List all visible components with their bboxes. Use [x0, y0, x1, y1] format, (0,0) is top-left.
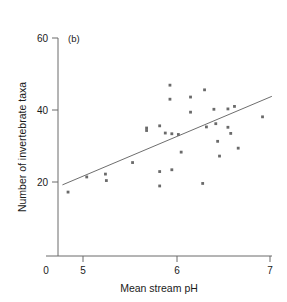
data-point — [169, 98, 172, 101]
y-tick-label-20: 20 — [37, 177, 49, 188]
y-tick-label-60: 60 — [37, 33, 49, 44]
data-point — [203, 88, 206, 91]
data-point — [67, 191, 70, 194]
data-point — [213, 108, 216, 111]
data-point — [158, 185, 161, 188]
x-axis-title: Mean stream pH — [120, 282, 198, 294]
data-point — [104, 173, 107, 176]
data-point — [237, 147, 240, 150]
data-point — [205, 126, 208, 129]
y-axis-title: Number of invertebrate taxa — [16, 82, 28, 212]
data-point — [233, 105, 236, 108]
data-point — [218, 155, 221, 158]
data-point — [180, 151, 183, 154]
data-point — [85, 176, 88, 179]
data-point — [145, 127, 148, 130]
data-point — [229, 132, 232, 135]
data-point — [164, 132, 167, 135]
x-tick-label-7: 7 — [267, 265, 273, 276]
data-point — [189, 96, 192, 99]
data-point — [158, 170, 161, 173]
x-tick-label-6: 6 — [174, 265, 180, 276]
data-point — [131, 161, 134, 164]
data-point — [105, 179, 108, 182]
data-point — [158, 124, 161, 127]
y-tick-label-40: 40 — [37, 105, 49, 116]
data-point — [189, 111, 192, 114]
data-point — [170, 168, 173, 171]
x-tick-label-5: 5 — [80, 265, 86, 276]
data-point — [169, 84, 172, 87]
data-point — [177, 133, 180, 136]
scatter-plot-figure: 60 40 20 0 5 6 7 Mean stream pH Number o… — [0, 0, 287, 302]
data-point — [227, 126, 230, 129]
data-point — [170, 132, 173, 135]
data-point — [201, 182, 204, 185]
data-point — [216, 140, 219, 143]
data-point — [214, 122, 217, 125]
x-tick-label-0: 0 — [43, 265, 49, 276]
data-point — [145, 129, 148, 132]
panel-label: (b) — [68, 33, 80, 44]
data-point — [261, 115, 264, 118]
data-point — [227, 108, 230, 111]
